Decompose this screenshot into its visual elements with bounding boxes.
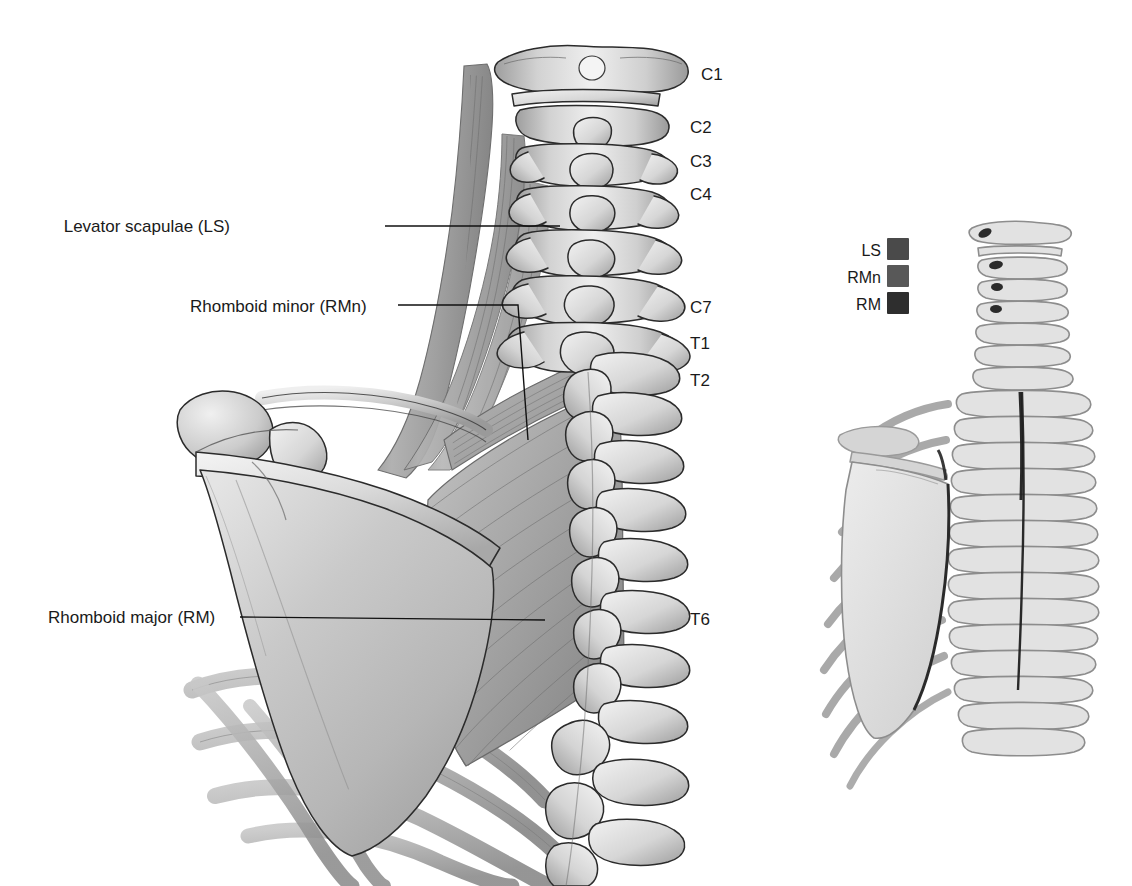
inset-rmn-origin-mark xyxy=(1020,392,1022,500)
illustration-canvas: Levator scapulae (LS) Rhomboid minor (RM… xyxy=(0,0,1132,886)
inset-acromion xyxy=(838,427,919,456)
legend-label-ls: LS xyxy=(861,242,881,259)
callout-levator-scapulae: Levator scapulae (LS) xyxy=(64,217,230,236)
legend-label-rm: RM xyxy=(856,296,881,313)
legend-swatch-ls xyxy=(887,238,909,260)
anatomy-figure: Levator scapulae (LS) Rhomboid minor (RM… xyxy=(0,0,1132,886)
vertebra-label-C2: C2 xyxy=(690,118,712,137)
vertebra-C1 xyxy=(495,46,689,106)
vertebra-label-T1: T1 xyxy=(690,334,710,353)
vertebra-C3 xyxy=(510,144,677,189)
callout-rhomboid-major: Rhomboid major (RM) xyxy=(48,608,215,627)
vertebra-label-C7: C7 xyxy=(690,298,712,317)
vertebra-label-T2: T2 xyxy=(690,371,710,390)
legend-swatch-rmn xyxy=(887,265,909,287)
vertebra-label-C1: C1 xyxy=(701,65,723,84)
legend-swatch-rm xyxy=(887,292,909,314)
legend-label-rmn: RMn xyxy=(847,269,881,286)
vertebra-label-C4: C4 xyxy=(690,185,712,204)
legend-row-rmn: RMn xyxy=(847,265,909,287)
vertebra-label-C3: C3 xyxy=(690,152,712,171)
vertebra-label-T6: T6 xyxy=(690,610,710,629)
callout-rhomboid-minor: Rhomboid minor (RMn) xyxy=(190,297,367,316)
